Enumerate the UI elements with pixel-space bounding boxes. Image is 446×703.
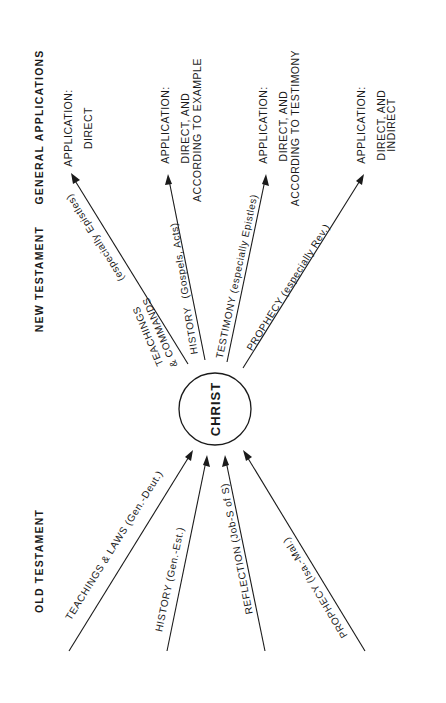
header-general-applications: GENERAL APPLICATIONS bbox=[33, 49, 45, 204]
christ-node: CHRIST bbox=[179, 373, 251, 445]
nt-label-history: HISTORY bbox=[181, 306, 199, 355]
ot-label-prophecy: PROPHECY (Isa.-Mal.) bbox=[280, 535, 349, 640]
application-title: APPLICATION: bbox=[355, 86, 367, 164]
application-line: DIRECT, AND bbox=[277, 91, 289, 162]
nt-label-history-sub: (Gospels, Acts) bbox=[168, 222, 191, 300]
application-title: APPLICATION: bbox=[257, 86, 269, 164]
arrowhead-icon bbox=[165, 174, 172, 185]
christ-label: CHRIST bbox=[208, 382, 223, 436]
arrowhead-icon bbox=[243, 450, 252, 461]
nt-label-teachings-sub: (especially Epistles) bbox=[64, 192, 127, 283]
ot-label-history: HISTORY (Gen.-Est.) bbox=[153, 526, 186, 633]
arrowhead-icon bbox=[356, 174, 364, 185]
application-line: ACCORDING TO TESTIMONY bbox=[289, 50, 301, 206]
arrowhead-icon bbox=[262, 174, 269, 186]
application-block-1: APPLICATION: DIRECT bbox=[62, 89, 94, 167]
application-title: APPLICATION: bbox=[159, 86, 171, 164]
ot-label-teachings: TEACHINGS & LAWS (Gen.-Deut.) bbox=[63, 468, 165, 622]
application-block-4: APPLICATION: DIRECT, AND INDIRECT bbox=[355, 86, 397, 164]
application-block-2: APPLICATION: DIRECT, AND ACCORDING TO EX… bbox=[159, 58, 203, 202]
bible-application-diagram: GENERAL APPLICATIONS NEW TESTAMENT OLD T… bbox=[0, 0, 446, 703]
application-title: APPLICATION: bbox=[62, 89, 74, 167]
nt-label-prophecy: PROPHECY (especially Rev.) bbox=[244, 222, 331, 353]
header-old-testament: OLD TESTAMENT bbox=[33, 509, 45, 613]
arrowhead-icon bbox=[185, 450, 193, 461]
application-line: DIRECT bbox=[82, 107, 94, 149]
arrowhead-icon bbox=[71, 173, 80, 184]
ot-arrow-prophecy bbox=[243, 450, 365, 651]
arrowhead-icon bbox=[222, 455, 229, 467]
application-line: ACCORDING TO EXAMPLE bbox=[191, 58, 203, 202]
arrowhead-icon bbox=[203, 455, 210, 467]
ot-label-reflection: REFLECTION (Job-S of S) bbox=[218, 482, 254, 615]
nt-arrow-teachings bbox=[71, 173, 188, 364]
application-line: INDIRECT bbox=[385, 98, 397, 152]
application-line: DIRECT, AND bbox=[179, 93, 191, 164]
header-new-testament: NEW TESTAMENT bbox=[33, 226, 45, 332]
